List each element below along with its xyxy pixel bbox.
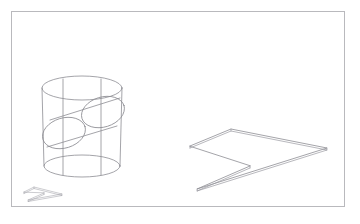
chevron-bottom-face	[190, 131, 327, 191]
tilted-cylinder-lower-edge	[47, 126, 117, 147]
tilted-cylinder	[39, 91, 129, 154]
vertical-cylinder-bottom-ellipse	[44, 155, 120, 177]
chevron-prism	[190, 129, 327, 191]
screenshot-canvas	[0, 0, 360, 224]
tilted-cylinder-upper-edge	[50, 98, 120, 120]
vertical-cylinder-edge-left-outer	[42, 88, 44, 166]
mini-chevron	[24, 187, 62, 202]
vertical-cylinder	[42, 76, 122, 177]
mini-chevron-top-face	[24, 187, 62, 200]
chevron-top-face	[190, 129, 327, 189]
wireframe-drawing	[0, 0, 360, 224]
